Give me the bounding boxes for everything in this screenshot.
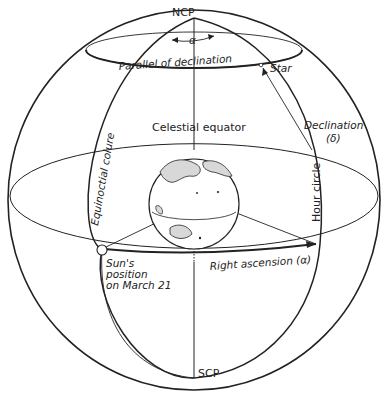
declination-arrow-shaft [263, 68, 312, 150]
star-label: Star [270, 62, 292, 74]
hour-circle-label: Hour circle [310, 163, 323, 222]
line-to-hour-circle [234, 212, 316, 244]
declination-symbol: (δ) [326, 132, 341, 144]
parallel-label: Parallel of declination [118, 52, 232, 72]
right-ascension-label: Right ascension (α) [209, 253, 311, 272]
sun-label-line3: on March 21 [106, 279, 171, 291]
scp-label: SCP [198, 367, 220, 380]
star-marker [259, 63, 263, 67]
earth-globe [149, 159, 239, 249]
celestial-equator-label: Celestial equator [152, 121, 246, 134]
alpha-arrow-right [208, 34, 214, 40]
ncp-label: NCP [172, 6, 195, 19]
celestial-sphere-diagram: NCP SCP α Parallel of declination Star C… [0, 0, 386, 396]
sun-position-marker [97, 245, 107, 255]
equinoctial-colure-label: Equinoctial colure [88, 132, 116, 227]
declination-label: Declination [304, 119, 363, 131]
alpha-arrow-left [172, 37, 178, 43]
alpha-label: α [189, 34, 196, 46]
